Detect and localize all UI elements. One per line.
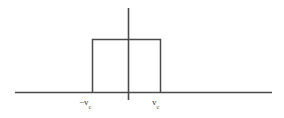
x-tick-label-negative-vc: −vc [79,98,91,107]
x-tick-label-positive-vc-subscript: c [157,103,160,110]
x-tick-label-positive-vc-base: v [152,97,157,107]
plot-canvas [0,0,284,118]
x-tick-label-positive-vc: vc [152,98,159,107]
x-tick-label-negative-vc-base: −v [79,97,89,107]
rectangular-pulse-curve [93,40,161,93]
rectangular-function-figure: −vc vc [0,0,284,118]
